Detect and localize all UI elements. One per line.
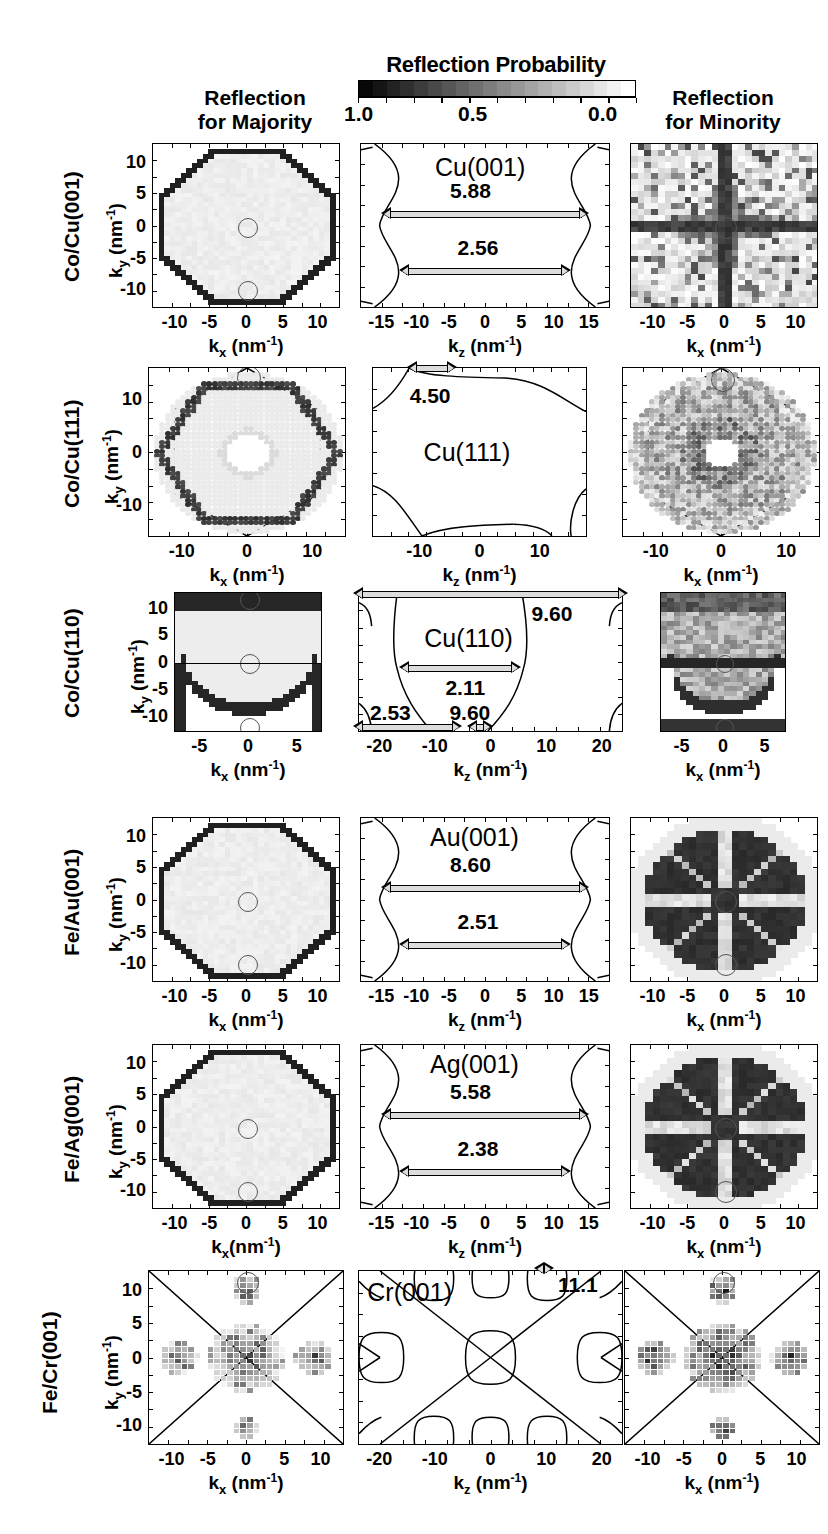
heatmap-cell [312,1370,318,1375]
heatmap-cell [690,1364,696,1369]
heatmap-cell [645,1353,651,1358]
heatmap-cell [227,1335,233,1340]
heatmap-cell [710,1429,716,1434]
y-tick-label: 5 [108,1313,142,1334]
heatmap-cell [214,1370,220,1375]
heatmap-cell [723,1347,729,1352]
heatmap-cell [776,1191,784,1198]
bz-circle-marker [715,954,737,976]
heatmap-cell [208,1347,214,1352]
heatmap-cell [697,1329,703,1334]
dimension-label-top: 4.50 [410,384,451,408]
heatmap-cell [260,1364,266,1369]
heatmap-cell [311,507,317,512]
x-tick-label: 20 [586,1449,618,1470]
heatmap-cell [312,1341,318,1346]
x-tick-label: -5 [433,986,465,1007]
panel-majority-fe-au-001 [152,817,340,982]
x-axis-label: kx(nm-1) [152,1235,340,1261]
heatmap-cell [782,1347,788,1352]
heatmap-cell [749,1370,755,1375]
dimension-label-lower: 2.38 [458,1137,499,1161]
heatmap-cell [690,1353,696,1358]
x-tick-label: 5 [270,312,296,333]
heatmap-cell [736,1341,742,1346]
heatmap-cell [254,1341,260,1346]
x-tick-label: -5 [433,312,465,333]
heatmap-cell [645,1370,651,1375]
heatmap-cell [776,964,784,971]
x-tick-label: 10 [299,541,325,562]
heatmap-cell [280,299,286,304]
plot-area-minority-co-cu-001 [630,143,818,308]
x-tick-label: 20 [586,736,618,757]
x-tick-label: -15 [365,312,397,333]
plot-area-minority-co-cu-111 [622,367,820,537]
heatmap-cell [710,1353,716,1358]
heatmap-cell [247,1347,253,1352]
heatmap-cell [768,1197,776,1204]
dimension-label-upper: 5.58 [450,1080,491,1104]
colorbar-step [442,81,456,96]
heatmap-cell [234,1324,240,1329]
heatmap-cell [162,1347,168,1352]
heatmap-cell [749,1376,755,1381]
heatmap-cell [169,1341,175,1346]
heatmap-cell [756,1359,762,1364]
heatmap-cell [254,1370,260,1375]
heatmap-cell [645,1341,651,1346]
x-tick-label: -5 [196,986,222,1007]
heatmap-cell [730,1329,736,1334]
heatmap-cell [234,1388,240,1393]
heatmap-cell [697,1341,703,1346]
heatmap-cell [651,1353,657,1358]
heatmap-cell [730,1376,736,1381]
row-label-co-cu-111: Co/Cu(111) [60,399,84,508]
colorbar-step [580,81,594,96]
panel-minority-co-cu-110 [660,592,786,732]
heatmap-cell [182,1359,188,1364]
heatmap-cell [749,1341,755,1346]
y-tick-label: 10 [108,389,142,410]
heatmap-cell [162,1353,168,1358]
heatmap-cell [716,1429,722,1434]
heatmap-cell [254,1388,260,1393]
heatmap-cell [169,1347,175,1352]
heatmap-cell [703,1347,709,1352]
heatmap-cell [321,498,327,503]
x-axis-label: kz (nm-1) [360,1008,610,1034]
heatmap-cell [227,1347,233,1352]
heatmap-cell [723,1335,729,1340]
heatmap-cell [254,1335,260,1340]
heatmap-cell [254,1353,260,1358]
heatmap-cell [330,930,336,935]
plot-area-minority-fe-au-001 [630,817,818,982]
heatmap-cell [280,1347,286,1352]
row-label-fe-ag-001: Fe/Ag(001) [60,1075,84,1182]
heatmap-cell [302,280,308,285]
heatmap-cell [703,1364,709,1369]
heatmap-cell [723,1388,729,1393]
heatmap-cell [221,1370,227,1375]
dimension-arrow-upper [381,1108,589,1121]
x-tick-label: -10 [640,986,666,1007]
x-axis-label: kx (nm-1) [624,1471,820,1497]
heatmap-cell [658,1347,664,1352]
heatmap-cell [214,1359,220,1364]
colorbar-step [469,81,483,96]
heatmap-cell [302,1181,308,1186]
heatmap-cell [247,1353,253,1358]
heatmap-cell [736,1376,742,1381]
heatmap-cell [267,1335,273,1340]
x-tick-label: -10 [419,1449,451,1470]
bz-circle-marker [240,654,260,674]
heatmap-cell [273,1376,279,1381]
heatmap-cell [195,1353,201,1358]
x-tick-label: -10 [162,986,188,1007]
heatmap-cell [324,1161,330,1166]
x-axis-label: kx (nm-1) [148,1471,344,1497]
heatmap-cell [801,1353,807,1358]
heatmap-cell [302,954,308,959]
heatmap-cell [690,1335,696,1340]
heatmap-cell [775,1347,781,1352]
